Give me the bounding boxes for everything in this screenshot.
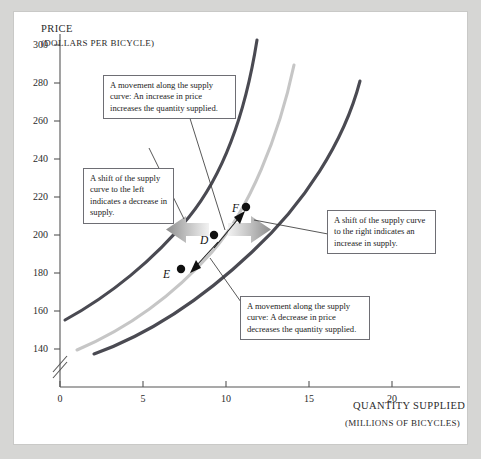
y-tick-label-160: 160	[22, 305, 48, 316]
y-tick-label-140: 140	[22, 343, 48, 354]
x-tick-marks	[60, 381, 392, 387]
y-tick-label-220: 220	[22, 191, 48, 202]
y-tick-label-200: 200	[22, 229, 48, 240]
annotation-movement-decrease: A movement along the supply curve: A dec…	[240, 296, 370, 340]
point-label-d: D	[200, 234, 208, 246]
y-tick-label-260: 260	[22, 115, 48, 126]
point-label-f: F	[232, 202, 239, 214]
annotation-shift-right: A shift of the supply curve to the right…	[327, 210, 436, 254]
x-tick-label-0: 0	[50, 393, 70, 404]
y-axis-subtitle: (DOLLARS PER BICYCLE)	[41, 38, 154, 48]
x-axis-title: QUANTITY SUPPLIED	[353, 400, 465, 411]
y-tick-label-240: 240	[22, 153, 48, 164]
y-tick-label-180: 180	[22, 267, 48, 278]
figure-root: 300 280 260 240 220 200 180 160 140 0 5 …	[0, 0, 481, 459]
movement-arrow-down	[190, 242, 218, 273]
x-tick-label-10: 10	[216, 393, 236, 404]
y-tick-marks	[54, 45, 60, 349]
x-axis-subtitle: (MILLIONS OF BICYCLES)	[345, 418, 460, 428]
point-label-e: E	[163, 268, 170, 280]
y-axis-title: PRICE	[41, 23, 73, 34]
annotation-movement-increase: A movement along the supply curve: An in…	[103, 75, 236, 119]
data-point-e	[177, 265, 185, 273]
x-tick-label-5: 5	[133, 393, 153, 404]
data-point-d	[210, 231, 218, 239]
y-tick-label-280: 280	[22, 77, 48, 88]
annotation-shift-left: A shift of the supply curve to the left …	[83, 168, 174, 224]
data-point-f	[242, 203, 250, 211]
x-tick-label-15: 15	[299, 393, 319, 404]
